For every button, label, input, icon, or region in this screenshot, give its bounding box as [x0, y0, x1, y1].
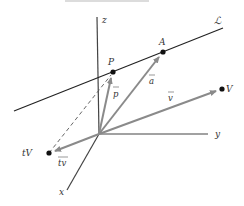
point-P [110, 69, 115, 74]
vector-tv-label: tv [58, 158, 66, 168]
y-axis-label: y [214, 129, 221, 139]
vector-p-label: p [113, 89, 119, 99]
point-tV [46, 150, 51, 155]
vector-tv [55, 134, 99, 151]
top-edge-strip [65, 0, 149, 2]
z-axis-label: z [101, 15, 107, 25]
vector-a-label: a [149, 76, 154, 86]
point-V-label: V [226, 84, 234, 94]
vector-v-label: v [168, 93, 173, 103]
line-L [14, 28, 223, 111]
point-P-label: P [107, 57, 115, 67]
point-tV-label: tV [22, 148, 34, 158]
x-axis-label: x [59, 187, 64, 197]
z-axis [97, 17, 99, 134]
point-A-label: A [158, 37, 166, 47]
x-axis [67, 134, 99, 190]
line-in-space-diagram: z y x ℒ P A V tV p a v tv [0, 0, 244, 206]
line-L-label: ℒ [214, 15, 222, 26]
point-A [160, 49, 165, 54]
diagram-canvas: z y x ℒ P A V tV p a v tv [0, 0, 244, 206]
point-V [219, 86, 224, 91]
